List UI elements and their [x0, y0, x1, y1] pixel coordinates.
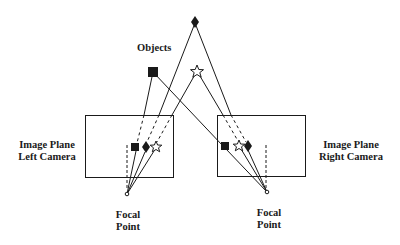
- right-ray-star-dashed: [223, 115, 238, 141]
- right-proj-diamond-icon: [244, 140, 252, 152]
- left-ray-star-dashed: [157, 115, 172, 142]
- right-plane-line2: Right Camera: [317, 151, 385, 163]
- right-image-plane: [218, 116, 306, 177]
- right-proj-square-icon: [221, 142, 229, 150]
- right-image-plane-label: Image Plane Right Camera: [317, 139, 385, 163]
- right-focal-point-icon: [265, 190, 269, 194]
- objects-label: Objects: [137, 42, 171, 54]
- left-ray-star-solid: [172, 71, 197, 115]
- right-ray-diamond-solid: [195, 23, 231, 115]
- right-proj-star-icon: [233, 140, 245, 151]
- right-ray-square-solid: [153, 72, 223, 146]
- right-proj-square-focal: [226, 149, 267, 192]
- left-ray-square-solid: [144, 72, 153, 115]
- right-focal-point-label: Focal Point: [252, 207, 286, 231]
- left-proj-square-icon: [131, 143, 139, 151]
- left-proj-star-icon: [150, 141, 162, 152]
- right-ray-diamond-dashed: [231, 115, 246, 142]
- left-focal-point-label: Focal Point: [111, 209, 145, 233]
- object-square-icon: [148, 67, 158, 77]
- right-focal-line2: Point: [252, 219, 286, 231]
- left-focal-point-icon: [125, 192, 129, 196]
- left-ray-square-dashed: [137, 115, 144, 143]
- right-plane-line1: Image Plane: [317, 139, 385, 151]
- left-image-plane-label: Image Plane Left Camera: [16, 139, 78, 163]
- left-plane-line2: Left Camera: [16, 151, 78, 163]
- right-focal-line1: Focal: [252, 207, 286, 219]
- left-plane-line1: Image Plane: [16, 139, 78, 151]
- object-star-icon: [191, 65, 204, 77]
- left-ray-diamond-solid: [159, 23, 195, 115]
- left-proj-diamond-focal: [127, 152, 145, 194]
- right-proj-star-focal: [241, 149, 267, 192]
- left-focal-line2: Point: [111, 221, 145, 233]
- left-proj-diamond-icon: [142, 141, 150, 153]
- stereo-camera-diagram: [0, 0, 400, 245]
- right-proj-diamond-focal: [248, 150, 267, 192]
- left-ray-diamond-dashed: [147, 115, 159, 142]
- left-focal-line1: Focal: [111, 209, 145, 221]
- object-diamond-icon: [191, 16, 199, 28]
